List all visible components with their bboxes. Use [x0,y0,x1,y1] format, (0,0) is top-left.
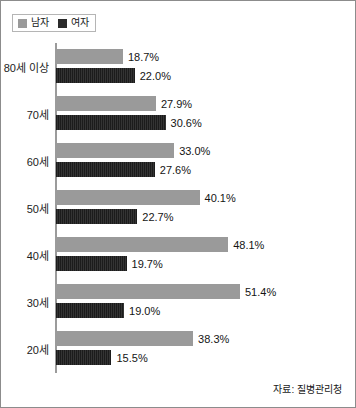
bar-male [56,143,174,158]
bar-group: 60세33.0%27.6% [1,137,356,184]
chart-legend: 남자 여자 [12,14,96,32]
bar-row: 51.4% [56,284,276,299]
category-label: 20세 [1,325,49,372]
bar-row: 30.6% [56,115,202,130]
bar-group: 30세51.4%19.0% [1,278,356,325]
bar-female [56,115,166,130]
bar-value-label: 15.5% [116,352,147,364]
category-label: 80세 이상 [1,43,49,90]
bar-group: 70세27.9%30.6% [1,90,356,137]
legend-label-female: 여자 [71,18,89,28]
bar-value-label: 27.6% [160,164,191,176]
bar-male [56,331,193,346]
legend-swatch-female-icon [58,19,67,28]
bar-female [56,350,111,365]
bar-value-label: 22.0% [140,70,171,82]
bar-male [56,96,156,111]
category-label: 60세 [1,137,49,184]
bar-value-label: 27.9% [161,98,192,110]
bar-male [56,237,228,252]
bar-value-label: 33.0% [179,145,210,157]
bar-male [56,284,240,299]
bar-chart: 남자 여자 80세 이상18.7%22.0%70세27.9%30.6%60세33… [0,0,356,408]
category-label: 40세 [1,231,49,278]
bar-row: 40.1% [56,190,236,205]
bar-row: 38.3% [56,331,229,346]
bar-row: 22.0% [56,68,171,83]
bar-row: 22.7% [56,209,173,224]
bar-female [56,68,135,83]
legend-label-male: 남자 [31,18,49,28]
bar-group: 80세 이상18.7%22.0% [1,43,356,90]
bar-value-label: 38.3% [198,333,229,345]
bar-value-label: 18.7% [128,51,159,63]
bar-value-label: 19.0% [129,305,160,317]
source-note: 자료: 질병관리청 [273,381,342,396]
bar-row: 19.7% [56,256,163,271]
bar-male [56,190,200,205]
bar-value-label: 51.4% [245,286,276,298]
category-label: 50세 [1,184,49,231]
bar-row: 15.5% [56,350,148,365]
bar-row: 33.0% [56,143,210,158]
category-label: 70세 [1,90,49,137]
bar-row: 27.6% [56,162,191,177]
bar-value-label: 30.6% [171,117,202,129]
bar-male [56,49,123,64]
bar-group: 50세40.1%22.7% [1,184,356,231]
bar-female [56,303,124,318]
plot-area: 80세 이상18.7%22.0%70세27.9%30.6%60세33.0%27.… [1,39,356,375]
bar-row: 48.1% [56,237,264,252]
bar-value-label: 40.1% [205,192,236,204]
legend-item-female: 여자 [58,18,89,28]
bar-value-label: 22.7% [142,211,173,223]
legend-item-male: 남자 [18,18,49,28]
bar-group: 40세48.1%19.7% [1,231,356,278]
bar-female [56,209,137,224]
bar-group: 20세38.3%15.5% [1,325,356,372]
bar-female [56,162,155,177]
bar-female [56,256,127,271]
bar-row: 27.9% [56,96,192,111]
legend-swatch-male-icon [18,19,27,28]
bar-value-label: 48.1% [233,239,264,251]
category-label: 30세 [1,278,49,325]
bar-row: 19.0% [56,303,160,318]
bar-value-label: 19.7% [132,258,163,270]
bar-row: 18.7% [56,49,159,64]
